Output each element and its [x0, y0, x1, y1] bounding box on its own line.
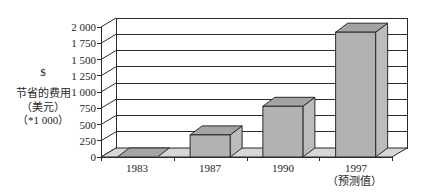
x-category-sublabel-forecast: （预测值）: [319, 175, 389, 187]
y-tick-label: 500: [52, 119, 96, 131]
x-category-label-1987: 1987: [175, 162, 245, 174]
y-tick-label: 1 000: [52, 86, 96, 98]
y-tick-label: 0: [52, 151, 96, 163]
side-wall-gridline: [101, 51, 116, 60]
side-wall-gridline: [101, 18, 116, 27]
y-tick-label: 750: [52, 102, 96, 114]
y-tick-label: 1 500: [52, 54, 96, 66]
side-wall-gridline: [101, 99, 116, 108]
side-wall-gridline: [101, 116, 116, 125]
side-wall-gridline: [101, 67, 116, 76]
y-tick-label: 1 750: [52, 37, 96, 49]
bar-1990-front: [263, 106, 303, 157]
y-tick-label: 1 250: [52, 70, 96, 82]
bar-1990-side: [303, 97, 315, 157]
bar-1997-side: [376, 23, 388, 157]
savings-3d-bar-chart: $ 节省的费用 （美元） （*1 000） 0 250 500 750 1 00…: [0, 0, 421, 195]
side-wall-gridline: [101, 83, 116, 92]
bar-1987-front: [190, 135, 230, 157]
y-tick-label: 2 000: [52, 21, 96, 33]
bar-1997-front: [336, 32, 376, 157]
y-tick-label: 250: [52, 135, 96, 147]
x-category-label-1997: 1997: [321, 162, 391, 174]
x-category-label-1990: 1990: [248, 162, 318, 174]
side-wall-gridline: [101, 132, 116, 141]
side-wall-gridline: [101, 34, 116, 43]
x-category-label-1983: 1983: [102, 162, 172, 174]
